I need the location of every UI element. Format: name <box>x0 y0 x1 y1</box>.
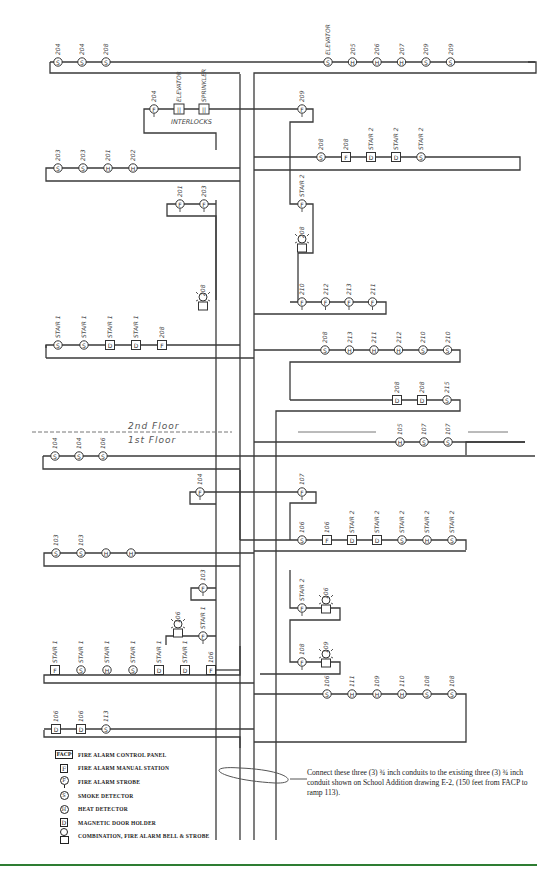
svg-text:104: 104 <box>196 473 203 485</box>
manual-station-icon: F106 <box>323 521 332 544</box>
strobe-icon: F108 <box>298 643 306 670</box>
svg-text:210: 210 <box>419 331 426 343</box>
door-holder-icon: D <box>50 818 78 827</box>
smoke-detector-icon: S107 <box>420 423 428 446</box>
legend-row: SSMOKE DETECTOR <box>50 789 280 803</box>
svg-text:F: F <box>209 667 213 674</box>
svg-text:211: 211 <box>369 284 376 295</box>
svg-text:208: 208 <box>321 331 328 343</box>
strobe-icon: F104 <box>196 473 204 500</box>
svg-text:106: 106 <box>322 587 329 599</box>
strobe-icon: F201 <box>176 186 184 212</box>
door-holder-icon: DSTAIR 1 <box>132 315 141 349</box>
strobe-icon: F212 <box>321 283 329 310</box>
strobe-icon: F204 <box>150 90 158 117</box>
svg-text:STAIR 1: STAIR 1 <box>54 315 61 338</box>
smoke-detector-icon: S203 <box>79 149 87 172</box>
svg-text:104: 104 <box>51 437 58 449</box>
svg-text:S: S <box>101 453 105 460</box>
svg-text:204: 204 <box>150 90 157 102</box>
svg-text:213: 213 <box>346 331 353 343</box>
smoke-detector-icon: S104 <box>75 437 83 460</box>
smoke-detector-icon: S210 <box>443 331 451 354</box>
legend: FACPFIRE ALARM CONTROL PANELFFIRE ALARM … <box>50 748 280 843</box>
svg-text:STAIR 1: STAIR 1 <box>199 606 206 629</box>
strobe-icon: F107 <box>298 473 306 500</box>
svg-text:F: F <box>160 342 164 349</box>
svg-text:F: F <box>324 299 328 306</box>
smoke-detector-icon: S <box>50 791 78 800</box>
fire-alarm-panel-icon: FACP <box>50 750 78 759</box>
svg-text:STAIR 1: STAIR 1 <box>129 640 136 663</box>
svg-text:H: H <box>106 165 111 172</box>
svg-text:204: 204 <box>78 43 85 55</box>
svg-text:D: D <box>420 397 425 404</box>
svg-text:215: 215 <box>443 381 450 393</box>
svg-text:209: 209 <box>298 90 305 102</box>
svg-text:S: S <box>80 59 84 66</box>
bell-strobe-combo-icon: 208 <box>196 284 210 310</box>
svg-text:STAIR 1: STAIR 1 <box>155 640 162 663</box>
manual-station-icon: F106 <box>207 651 216 674</box>
svg-text:S: S <box>446 439 450 446</box>
svg-text:110: 110 <box>398 675 405 687</box>
strobe-icon: F210 <box>298 283 306 310</box>
svg-text:S: S <box>56 59 60 66</box>
smoke-detector-icon: S108 <box>448 675 456 698</box>
svg-text:S: S <box>425 691 429 698</box>
smoke-detector-icon: S208 <box>321 331 329 354</box>
svg-text:108: 108 <box>423 675 430 687</box>
svg-text:H: H <box>399 59 404 66</box>
svg-text:108: 108 <box>448 675 455 687</box>
legend-text: COMBINATION, FIRE ALARM BELL & STROBE <box>78 833 209 839</box>
legend-text: HEAT DETECTOR <box>78 806 128 812</box>
svg-text:S: S <box>56 342 60 349</box>
svg-text:205: 205 <box>349 43 356 55</box>
smoke-detector-icon: S209 <box>422 43 430 66</box>
svg-text:S: S <box>300 537 304 544</box>
door-holder-icon: DSTAIR 2 <box>348 510 357 544</box>
svg-text:113: 113 <box>102 710 109 722</box>
legend-row: FFIRE ALARM STROBE <box>50 775 280 789</box>
svg-text:S: S <box>79 550 83 557</box>
svg-text:D: D <box>183 667 188 674</box>
main-conduits <box>216 74 254 840</box>
svg-text:S: S <box>82 342 86 349</box>
smoke-detector-icon: S208 <box>317 138 325 161</box>
svg-text:S: S <box>450 691 454 698</box>
svg-text:201: 201 <box>176 186 183 197</box>
svg-text:STAIR 2: STAIR 2 <box>367 127 374 150</box>
svg-text:106: 106 <box>323 675 330 687</box>
svg-text:103: 103 <box>199 569 206 581</box>
svg-text:F: F <box>300 106 304 113</box>
svg-text:D: D <box>350 537 355 544</box>
smoke-detector-icon: SSTAIR 1 <box>54 315 62 349</box>
smoke-detector-icon: S106 <box>323 675 331 698</box>
svg-text:S: S <box>81 165 85 172</box>
svg-text:212: 212 <box>395 331 402 343</box>
svg-text:213: 213 <box>345 283 352 295</box>
svg-text:F: F <box>300 201 304 208</box>
floor-label-1st: 1st Floor <box>128 435 176 445</box>
svg-text:S: S <box>326 59 330 66</box>
svg-text:106: 106 <box>77 710 84 722</box>
svg-text:D: D <box>375 537 380 544</box>
legend-text: FIRE ALARM MANUAL STATION <box>78 765 169 771</box>
heat-detector-icon: H111 <box>348 676 356 699</box>
smoke-detector-icon: S215 <box>443 381 451 404</box>
legend-row: FACPFIRE ALARM CONTROL PANEL <box>50 748 280 762</box>
smoke-detector-icon: S210 <box>419 331 427 354</box>
svg-text:S: S <box>319 154 323 161</box>
bell-strobe-combo-icon: 106 <box>171 611 185 637</box>
svg-text:202: 202 <box>129 149 136 161</box>
svg-text:111: 111 <box>348 676 355 687</box>
svg-text:F: F <box>201 585 205 592</box>
svg-text:F: F <box>152 106 156 113</box>
svg-text:106: 106 <box>52 710 59 722</box>
door-holder-icon: DSTAIR 2 <box>373 510 382 544</box>
svg-text:S: S <box>323 347 327 354</box>
svg-text:208: 208 <box>298 226 305 238</box>
smoke-detector-icon: SSTAIR 1 <box>129 640 137 674</box>
svg-text:104: 104 <box>75 437 82 449</box>
svg-text:212: 212 <box>322 283 329 295</box>
